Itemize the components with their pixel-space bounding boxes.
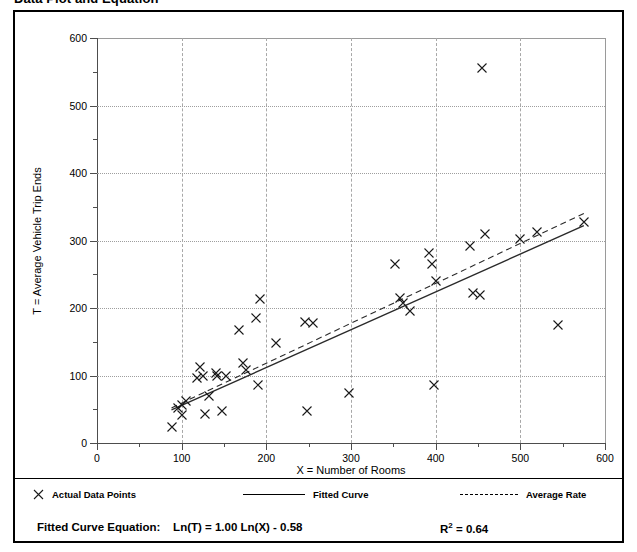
plot-wrapper: 01002003004005006000100200300400500600: [97, 38, 605, 443]
legend-item-actual-points: Actual Data Points: [33, 489, 136, 500]
y-axis-tick-label: 200: [69, 302, 87, 314]
r-squared-value: R2 = 0.64: [440, 521, 488, 535]
x-axis-minor-tick: [309, 443, 310, 447]
chart-legend: Actual Data Points Fitted Curve Average …: [15, 489, 622, 511]
equation-expression: Ln(T) = 1.00 Ln(X) - 0.58: [173, 521, 302, 533]
legend-label-fitted-curve: Fitted Curve: [313, 489, 368, 500]
data-point-marker: [477, 63, 488, 74]
y-axis-title-label: T = Average Vehicle Trip Ends: [31, 167, 43, 314]
data-point-marker: [220, 370, 231, 381]
data-point-marker: [180, 396, 191, 407]
x-axis-tick: [351, 443, 352, 450]
data-point-marker: [271, 338, 282, 349]
data-point-marker: [427, 259, 438, 270]
data-point-marker: [234, 325, 245, 336]
data-point-marker: [390, 259, 401, 270]
x-axis-tick: [266, 443, 267, 450]
x-axis-tick: [520, 443, 521, 450]
y-axis-tick: [90, 443, 97, 444]
y-axis-tick-label: 400: [69, 167, 87, 179]
x-axis-tick: [605, 443, 606, 450]
data-point-marker: [532, 227, 543, 238]
y-axis-tick-label: 100: [69, 370, 87, 382]
legend-label-actual-points: Actual Data Points: [52, 489, 136, 500]
y-axis-tick-label: 300: [69, 235, 87, 247]
x-axis-tick-label: 300: [342, 452, 360, 464]
data-point-marker: [578, 216, 589, 227]
data-point-marker: [254, 294, 265, 305]
data-point-marker: [479, 228, 490, 239]
data-point-marker: [166, 422, 177, 433]
fitted-curve-equation: Fitted Curve Equation: Ln(T) = 1.00 Ln(X…: [37, 521, 303, 533]
x-axis-minor-tick: [224, 443, 225, 447]
x-axis-title: X = Number of Rooms: [97, 464, 605, 476]
y-axis-tick: [90, 308, 97, 309]
y-axis-tick: [90, 241, 97, 242]
data-point-marker: [515, 234, 526, 245]
data-point-marker: [203, 390, 214, 401]
y-axis-tick: [90, 106, 97, 107]
data-point-marker: [200, 408, 211, 419]
x-axis-minor-tick: [139, 443, 140, 447]
data-point-marker: [423, 248, 434, 259]
data-point-marker: [474, 289, 485, 300]
chart-page: Data Plot and Equation T = Average Vehic…: [0, 0, 637, 552]
page-title: Data Plot and Equation: [14, 0, 158, 6]
solid-line-icon: [243, 494, 305, 495]
legend-label-average-rate: Average Rate: [526, 489, 586, 500]
x-axis-minor-tick: [478, 443, 479, 447]
legend-divider: [15, 478, 622, 479]
r-squared-number: = 0.64: [456, 523, 488, 535]
cross-marker-icon: [33, 489, 44, 500]
x-axis-tick-label: 600: [596, 452, 614, 464]
equation-row: Fitted Curve Equation: Ln(T) = 1.00 Ln(X…: [15, 521, 622, 543]
y-axis-tick: [90, 38, 97, 39]
y-axis-tick: [90, 376, 97, 377]
data-point-marker: [217, 406, 228, 417]
data-point-marker: [197, 370, 208, 381]
y-axis-tick-label: 0: [81, 437, 87, 449]
legend-item-fitted-curve: Fitted Curve: [243, 489, 368, 500]
data-point-marker: [430, 276, 441, 287]
data-point-marker: [464, 240, 475, 251]
r-squared-exponent: 2: [448, 521, 452, 530]
x-axis-tick-label: 0: [94, 452, 100, 464]
x-axis-tick-label: 200: [258, 452, 276, 464]
x-axis-minor-tick: [393, 443, 394, 447]
equation-label: Fitted Curve Equation:: [37, 521, 160, 533]
x-axis-tick-label: 400: [427, 452, 445, 464]
data-point-marker: [176, 409, 187, 420]
data-point-marker: [428, 379, 439, 390]
data-point-marker: [241, 365, 252, 376]
fitted-curve-line: [172, 226, 584, 410]
dashed-line-icon: [460, 494, 518, 495]
data-point-marker: [344, 388, 355, 399]
data-point-marker: [251, 313, 262, 324]
series-lines: [97, 38, 605, 443]
data-point-marker: [301, 405, 312, 416]
legend-item-average-rate: Average Rate: [460, 489, 586, 500]
y-axis-tick-label: 600: [69, 32, 87, 44]
x-axis-tick-label: 100: [173, 452, 191, 464]
data-point-marker: [252, 379, 263, 390]
x-axis-minor-tick: [563, 443, 564, 447]
x-axis-tick: [97, 443, 98, 450]
x-axis-tick-label: 500: [512, 452, 530, 464]
data-point-marker: [405, 305, 416, 316]
x-axis-tick: [436, 443, 437, 450]
plot-area: 01002003004005006000100200300400500600: [97, 38, 605, 443]
data-point-marker: [307, 317, 318, 328]
data-point-marker: [553, 319, 564, 330]
x-axis-tick: [182, 443, 183, 450]
y-axis-tick: [90, 173, 97, 174]
axis-right: [605, 38, 606, 443]
y-axis-title: T = Average Vehicle Trip Ends: [29, 38, 45, 443]
y-axis-tick-label: 500: [69, 100, 87, 112]
